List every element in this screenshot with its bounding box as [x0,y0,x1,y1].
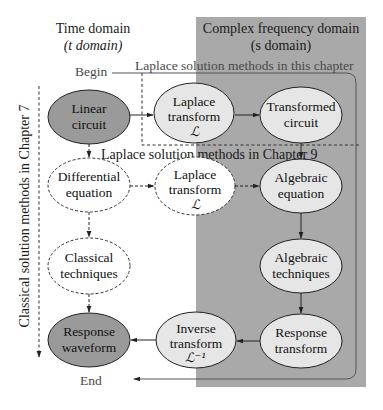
svg-text:Transformed: Transformed [266,99,335,114]
node-laplace-transform-mid: Laplace transform ℒ [155,157,235,215]
node-algebraic-techniques: Algebraic techniques [260,239,342,293]
svg-text:Linear: Linear [71,101,107,116]
svg-text:Laplace: Laplace [173,94,216,109]
svg-text:circuit: circuit [72,117,107,132]
laplace-this-chapter-label: Laplace solution methods in this chapter [135,58,354,73]
svg-text:Response: Response [63,324,115,339]
svg-text:Algebraic: Algebraic [274,170,327,185]
svg-text:transform: transform [170,336,223,351]
svg-text:Laplace: Laplace [174,167,217,182]
end-label: End [80,373,102,388]
svg-text:circuit: circuit [284,115,319,130]
svg-text:Algebraic: Algebraic [274,250,327,265]
svg-text:techniques: techniques [60,266,118,281]
svg-text:equation: equation [278,186,325,201]
time-domain-header: Time domain (t domain) [56,21,131,54]
svg-text:Classical: Classical [65,250,114,265]
s-domain-subtitle: (s domain) [251,38,312,54]
svg-text:Inverse: Inverse [176,321,216,336]
svg-text:waveform: waveform [62,340,117,355]
node-laplace-transform-top: Laplace transform ℒ [154,83,234,143]
svg-text:Complex frequency domain: Complex frequency domain [203,21,359,36]
svg-text:Response: Response [275,325,327,340]
laplace-script-icon: ℒ [190,124,200,139]
svg-text:Differential: Differential [58,169,121,184]
svg-text:transform: transform [168,109,221,124]
classical-chapter7-label: Classical solution methods in Chapter 7 [17,105,32,328]
node-response-waveform: Response waveform [48,313,130,367]
node-classical-techniques: Classical techniques [48,238,130,294]
laplace-script-icon: ℒ [191,197,201,212]
svg-text:transform: transform [169,182,222,197]
svg-text:Time domain: Time domain [56,21,131,36]
svg-text:transform: transform [275,341,328,356]
node-inverse-transform: Inverse transform ℒ⁻¹ [156,312,236,368]
node-response-transform: Response transform [260,314,342,368]
node-algebraic-equation: Algebraic equation [260,159,342,213]
laplace-solution-flow-diagram: Time domain (t domain) Complex frequency… [0,0,383,410]
inverse-laplace-script-icon: ℒ⁻¹ [185,350,206,365]
t-domain-subtitle: (t domain) [64,38,123,54]
svg-text:techniques: techniques [272,266,330,281]
svg-text:equation: equation [66,185,113,200]
node-transformed-circuit: Transformed circuit [260,87,342,143]
node-linear-circuit: Linear circuit [48,90,130,144]
node-differential-equation: Differential equation [48,158,130,212]
begin-label: Begin [75,64,107,79]
